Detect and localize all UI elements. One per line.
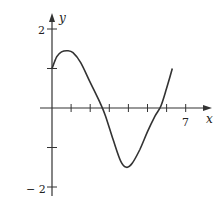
x-axis-label: x bbox=[206, 112, 213, 126]
x-axis-arrow-icon bbox=[203, 105, 212, 111]
x-tick-label-7: 7 bbox=[182, 116, 189, 129]
y-tick-label-2: 2 bbox=[38, 24, 45, 37]
chart-svg: y x 7 2 − 2 bbox=[0, 0, 219, 213]
y-axis-label: y bbox=[58, 11, 66, 25]
y-axis-arrow-icon bbox=[49, 13, 55, 22]
y-tick-label-neg2: − 2 bbox=[26, 183, 46, 196]
axes bbox=[40, 13, 212, 196]
function-graph: y x 7 2 − 2 bbox=[0, 0, 219, 213]
function-curve bbox=[52, 51, 172, 168]
